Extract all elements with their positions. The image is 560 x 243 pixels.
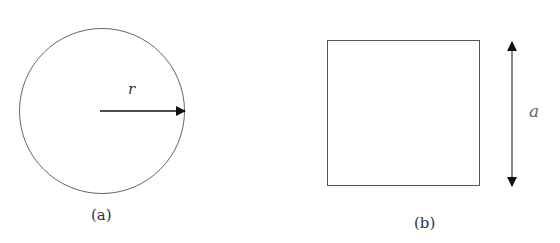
diagram-canvas — [0, 0, 560, 243]
caption-b: (b) — [414, 214, 435, 232]
side-label: a — [529, 101, 539, 121]
square-shape — [328, 41, 480, 186]
radius-label: r — [128, 80, 135, 98]
caption-a: (a) — [91, 206, 112, 224]
